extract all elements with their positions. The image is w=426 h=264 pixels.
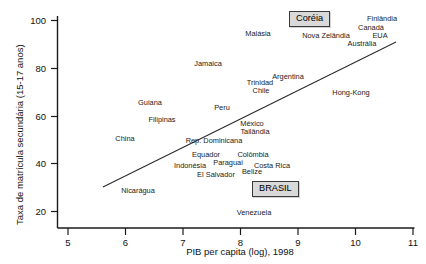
y-tick-label-80: 80 <box>22 64 46 74</box>
data-point-brasil-highlight: BRASIL <box>252 181 299 197</box>
y-tick-label-100: 100 <box>22 16 46 26</box>
x-tick-label-10: 10 <box>350 238 361 248</box>
data-point-nicaragua: Nicarágua <box>121 187 155 194</box>
data-point-indonesia: Indonésia <box>174 162 206 169</box>
x-tick-label-6: 6 <box>123 238 128 248</box>
x-axis-ticks <box>68 228 413 235</box>
data-point-hong-kong: Hong-Kong <box>332 89 369 96</box>
data-point-jamaica: Jamaica <box>194 60 222 67</box>
y-axis-ticks <box>51 21 58 212</box>
x-tick-label-8: 8 <box>238 238 243 248</box>
data-point-australia: Austrália <box>348 40 377 47</box>
data-point-nova-zelandia: Nova Zelândia <box>302 32 350 39</box>
data-point-filipinas: Filipinas <box>148 116 175 123</box>
data-point-paraguai: Paraguai <box>213 159 243 166</box>
data-point-el-salvador: El Salvador <box>197 171 235 178</box>
x-tick-label-11: 11 <box>408 238 418 248</box>
y-tick-label-60: 60 <box>22 112 46 122</box>
data-point-malasia: Malásia <box>245 30 270 37</box>
trend-line <box>103 42 396 187</box>
data-point-chile: Chile <box>253 87 270 94</box>
data-point-china: China <box>115 135 134 142</box>
y-tick-label-40: 40 <box>22 159 46 169</box>
x-tick-label-9: 9 <box>295 238 300 248</box>
scatter-chart-container: Taxa de matrícula secundária (15-17 anos… <box>0 0 426 264</box>
data-point-belize: Belize <box>242 168 262 175</box>
data-point-finlandia: Finlândia <box>367 15 397 22</box>
data-point-peru: Peru <box>214 104 230 111</box>
data-point-tailandia: Tailândia <box>240 128 269 135</box>
data-point-venezuela: Venezuela <box>237 209 272 216</box>
data-point-coreia-highlight: Coréia <box>289 11 330 27</box>
x-tick-label-7: 7 <box>180 238 185 248</box>
x-tick-label-5: 5 <box>65 238 70 248</box>
y-tick-label-20: 20 <box>22 207 46 217</box>
data-point-argentina: Argentina <box>272 73 304 80</box>
data-point-guiana: Guiana <box>138 99 162 106</box>
data-point-rep-dominicana: Rep. Dominicana <box>186 137 243 144</box>
